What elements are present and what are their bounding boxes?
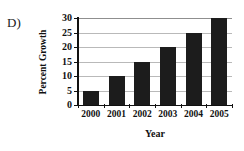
plot-area xyxy=(78,18,232,105)
x-tick-label: 2003 xyxy=(155,108,181,120)
x-axis-title: Year xyxy=(78,128,232,139)
y-tick-mark xyxy=(74,33,78,34)
y-tick-mark xyxy=(74,76,78,77)
x-tick-label: 2005 xyxy=(206,108,232,120)
y-tick-mark xyxy=(74,18,78,19)
bar xyxy=(160,47,176,105)
y-tick-mark xyxy=(74,47,78,48)
y-tick-label: 0 xyxy=(50,100,72,110)
panel-label: D) xyxy=(7,15,21,31)
y-axis-title: Percent Growth xyxy=(36,18,50,106)
x-tick-mark xyxy=(232,104,233,108)
y-tick-label: 20 xyxy=(50,42,72,52)
bar xyxy=(186,33,202,106)
x-tick-label: 2004 xyxy=(181,108,207,120)
x-tick-mark xyxy=(104,104,105,108)
x-axis-tick-labels: 200020012002200320042005 xyxy=(78,108,232,120)
x-tick-mark xyxy=(181,104,182,108)
y-tick-label: 10 xyxy=(50,71,72,81)
bar xyxy=(211,18,227,105)
x-tick-mark xyxy=(129,104,130,108)
y-tick-mark xyxy=(74,62,78,63)
bar-series xyxy=(78,18,232,105)
x-tick-mark xyxy=(206,104,207,108)
y-tick-label: 5 xyxy=(50,86,72,96)
x-tick-mark xyxy=(155,104,156,108)
x-tick-label: 2001 xyxy=(104,108,130,120)
bar xyxy=(109,76,125,105)
y-tick-label: 30 xyxy=(50,13,72,23)
y-tick-label: 25 xyxy=(50,28,72,38)
x-tick-label: 2000 xyxy=(78,108,104,120)
bar-chart-figure: D) Percent Growth 051015202530 200020012… xyxy=(0,0,244,151)
y-axis-tick-labels: 051015202530 xyxy=(50,18,72,105)
y-tick-label: 15 xyxy=(50,57,72,67)
x-tick-label: 2002 xyxy=(129,108,155,120)
x-tick-mark xyxy=(78,104,79,108)
bar xyxy=(134,62,150,106)
y-tick-mark xyxy=(74,91,78,92)
bar xyxy=(83,91,99,106)
